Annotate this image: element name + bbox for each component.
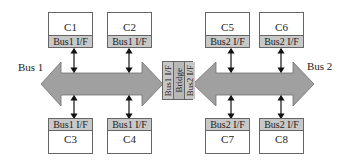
bridge-section-label: Bus2 I/F — [185, 65, 195, 96]
bus-interface: Bus2 I/F — [260, 119, 303, 131]
bus-interface: Bus1 I/F — [49, 119, 92, 131]
bridge-core: Bridge — [174, 62, 185, 99]
bus-interface: Bus2 I/F — [206, 119, 249, 131]
component-c4: Bus1 I/F C4 — [107, 118, 152, 154]
component-c8: Bus2 I/F C8 — [259, 118, 304, 154]
bus-interface: Bus1 I/F — [49, 35, 92, 47]
component-name: C4 — [108, 133, 151, 145]
bus-interface: Bus1 I/F — [108, 35, 151, 47]
bridge: Bus1 I/F Bridge Bus2 I/F — [162, 61, 193, 100]
component-c5: C5 Bus2 I/F — [205, 12, 250, 48]
bus2-arrow — [193, 62, 314, 106]
component-name: C5 — [206, 21, 249, 33]
component-name: C3 — [49, 133, 92, 145]
component-c6: C6 Bus2 I/F — [259, 12, 304, 48]
bus-interface: Bus2 I/F — [206, 35, 249, 47]
component-name: C1 — [49, 21, 92, 33]
bus-interface: Bus1 I/F — [108, 119, 151, 131]
bridge-section-label: Bridge — [174, 68, 184, 93]
component-c7: Bus2 I/F C7 — [205, 118, 250, 154]
component-c3: Bus1 I/F C3 — [48, 118, 93, 154]
component-name: C6 — [260, 21, 303, 33]
bridge-bus1-interface: Bus1 I/F — [163, 62, 174, 99]
bus2-label: Bus 2 — [307, 60, 332, 72]
component-name: C2 — [108, 21, 151, 33]
bridge-section-label: Bus1 I/F — [163, 65, 173, 96]
component-name: C8 — [260, 133, 303, 145]
bus1-arrow — [41, 62, 163, 106]
bus1-label: Bus 1 — [18, 61, 43, 73]
component-c1: C1 Bus1 I/F — [48, 12, 93, 48]
component-name: C7 — [206, 133, 249, 145]
bus-interface: Bus2 I/F — [260, 35, 303, 47]
bridge-bus2-interface: Bus2 I/F — [185, 62, 195, 99]
component-c2: C2 Bus1 I/F — [107, 12, 152, 48]
